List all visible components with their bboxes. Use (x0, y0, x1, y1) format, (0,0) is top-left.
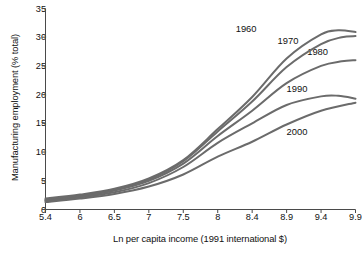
plot-area (0, 0, 362, 255)
axis-lines (46, 9, 356, 210)
data-curves (46, 30, 356, 202)
curve-2000 (46, 103, 356, 202)
curve-1970 (46, 36, 356, 200)
curve-1980 (46, 60, 356, 200)
chart-figure: Manufacturing employment (% total) Ln pe… (0, 0, 362, 255)
tick-marks (42, 9, 356, 214)
